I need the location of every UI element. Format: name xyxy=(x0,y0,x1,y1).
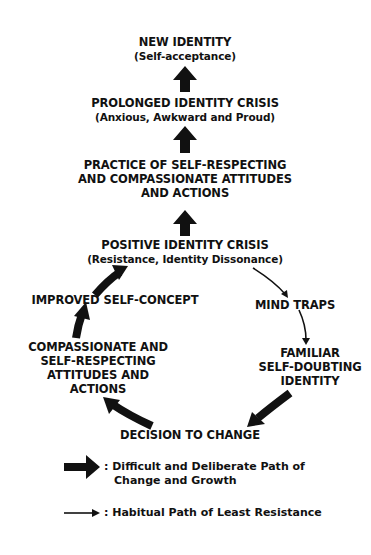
thick-arrow-curve-icon xyxy=(258,393,290,418)
node-line: IDENTITY xyxy=(255,374,365,388)
node-prolonged-crisis: PROLONGED IDENTITY CRISIS (Anxious, Awkw… xyxy=(60,96,310,124)
node-improved-self-concept: IMPROVED SELF-CONCEPT xyxy=(30,293,200,307)
node-line: PRACTICE OF SELF-RESPECTING xyxy=(60,158,310,172)
node-subtitle: (Self-acceptance) xyxy=(105,49,265,63)
thick-arrow-curve-icon xyxy=(112,404,152,426)
thin-arrowhead-icon xyxy=(302,338,310,345)
node-title: NEW IDENTITY xyxy=(105,35,265,49)
thick-arrow-up-icon xyxy=(173,126,197,153)
node-new-identity: NEW IDENTITY (Self-acceptance) xyxy=(105,35,265,63)
node-title: IMPROVED SELF-CONCEPT xyxy=(30,293,200,307)
thin-arrow-icon xyxy=(253,268,285,294)
legend-thin: : Habitual Path of Least Resistance xyxy=(104,506,354,520)
node-subtitle: (Resistance, Identity Dissonance) xyxy=(60,252,310,266)
node-line: ACTIONS xyxy=(18,382,178,396)
node-mind-traps: MIND TRAPS xyxy=(250,298,340,312)
node-title: MIND TRAPS xyxy=(250,298,340,312)
thick-arrow-up-icon xyxy=(173,210,197,236)
legend-text: : Habitual Path of Least Resistance xyxy=(104,506,354,520)
node-line: AND COMPASSIONATE ATTITUDES xyxy=(60,172,310,186)
node-positive-crisis: POSITIVE IDENTITY CRISIS (Resistance, Id… xyxy=(60,238,310,266)
node-practice: PRACTICE OF SELF-RESPECTING AND COMPASSI… xyxy=(60,158,310,200)
node-familiar: FAMILIAR SELF-DOUBTING IDENTITY xyxy=(255,346,365,388)
node-subtitle: (Anxious, Awkward and Proud) xyxy=(60,110,310,124)
thin-arrow-icon xyxy=(299,310,306,340)
node-line: FAMILIAR xyxy=(255,346,365,360)
legend-thick-arrow-icon xyxy=(64,455,100,479)
thick-arrow-up-icon xyxy=(173,66,197,92)
node-title: PROLONGED IDENTITY CRISIS xyxy=(60,96,310,110)
legend-thick: : Difficult and Deliberate Path of Chang… xyxy=(104,460,354,488)
thick-arrow-curve-icon xyxy=(95,272,120,295)
node-title: POSITIVE IDENTITY CRISIS xyxy=(60,238,310,252)
legend-text: : Difficult and Deliberate Path of xyxy=(104,460,354,474)
node-line: SELF-RESPECTING xyxy=(18,354,178,368)
node-title: DECISION TO CHANGE xyxy=(90,428,290,442)
node-line: SELF-DOUBTING xyxy=(255,360,365,374)
node-line: ATTITUDES AND xyxy=(18,368,178,382)
node-compassionate: COMPASSIONATE AND SELF-RESPECTING ATTITU… xyxy=(18,340,178,396)
node-line: COMPASSIONATE AND xyxy=(18,340,178,354)
node-line: AND ACTIONS xyxy=(60,186,310,200)
legend-text: Change and Growth xyxy=(104,474,354,488)
node-decision: DECISION TO CHANGE xyxy=(90,428,290,442)
legend-thin-arrowhead-icon xyxy=(92,509,100,517)
